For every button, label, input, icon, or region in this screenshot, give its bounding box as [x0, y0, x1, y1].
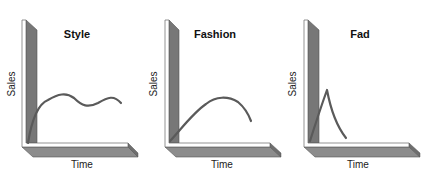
x-axis-underside: [304, 147, 420, 157]
panel-style: Style Sales Time: [6, 20, 138, 170]
product-life-cycle-diagram: Style Sales Time Fashion Sales Time Fad …: [0, 0, 431, 174]
x-axis-underside: [22, 147, 138, 157]
x-axis-label: Time: [211, 159, 233, 170]
y-axis-label: Sales: [148, 71, 159, 96]
panel-title: Style: [64, 28, 90, 40]
y-axis-side: [169, 20, 179, 143]
y-axis-label: Sales: [287, 71, 298, 96]
panel-fad: Fad Sales Time: [287, 20, 420, 170]
panel-title: Fad: [350, 28, 370, 40]
panel-fashion: Fashion Sales Time: [148, 20, 281, 170]
x-axis-label: Time: [347, 159, 369, 170]
x-axis-underside: [165, 147, 281, 157]
panel-title: Fashion: [194, 28, 236, 40]
style-curve: [28, 94, 121, 143]
y-axis-side: [308, 20, 319, 143]
x-axis-label: Time: [71, 159, 93, 170]
fashion-curve: [170, 98, 251, 141]
y-axis-label: Sales: [6, 71, 17, 96]
